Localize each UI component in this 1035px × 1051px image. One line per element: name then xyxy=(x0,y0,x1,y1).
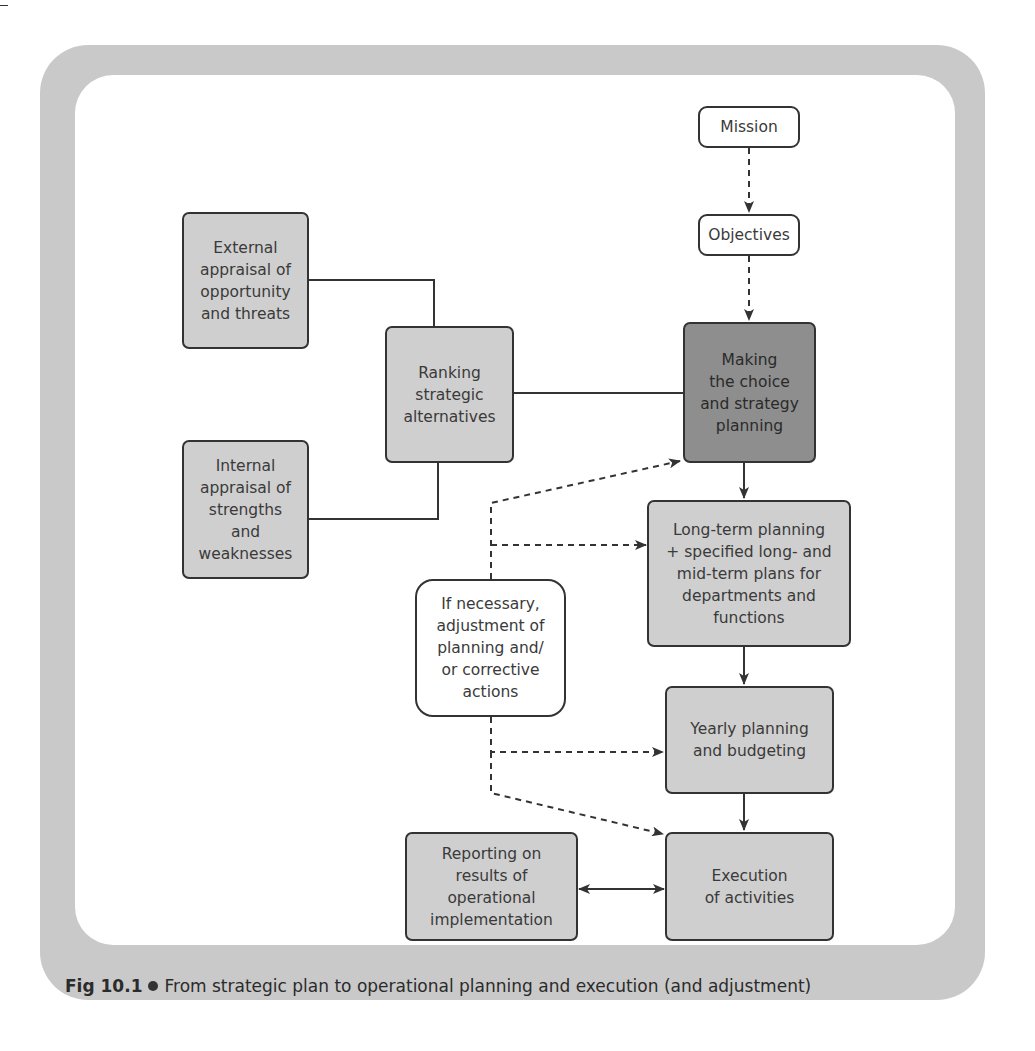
node-internal-appraisal-label: Internal appraisal of strengths and weak… xyxy=(199,455,293,565)
node-adjustment-label: If necessary, adjustment of planning and… xyxy=(436,593,544,703)
edge-internal-ranking xyxy=(309,463,438,519)
node-long-term-planning: Long-term planning + specified long- and… xyxy=(647,500,851,647)
node-ranking-alternatives: Ranking strategic alternatives xyxy=(385,326,514,463)
figure-caption-text: From strategic plan to operational plann… xyxy=(164,976,811,996)
node-long-term-planning-label: Long-term planning + specified long- and… xyxy=(666,519,831,629)
node-execution-label: Execution of activities xyxy=(705,865,795,909)
edge-external-ranking xyxy=(309,280,434,326)
figure-caption: Fig 10.1From strategic plan to operation… xyxy=(65,976,811,996)
figure-label: Fig 10.1 xyxy=(65,976,142,996)
node-objectives: Objectives xyxy=(698,214,800,256)
node-making-choice: Making the choice and strategy planning xyxy=(683,322,816,463)
node-execution: Execution of activities xyxy=(665,832,834,941)
node-mission-label: Mission xyxy=(720,116,777,138)
node-reporting: Reporting on results of operational impl… xyxy=(405,832,578,941)
node-external-appraisal: External appraisal of opportunity and th… xyxy=(182,212,309,349)
edge-adjust-execution xyxy=(491,752,663,834)
edge-adjust-yearly xyxy=(491,717,663,752)
node-reporting-label: Reporting on results of operational impl… xyxy=(430,843,553,931)
node-mission: Mission xyxy=(698,106,800,148)
node-making-choice-label: Making the choice and strategy planning xyxy=(700,349,799,437)
node-internal-appraisal: Internal appraisal of strengths and weak… xyxy=(182,440,309,579)
node-yearly-planning-label: Yearly planning and budgeting xyxy=(690,718,808,762)
node-ranking-alternatives-label: Ranking strategic alternatives xyxy=(403,362,495,428)
node-yearly-planning: Yearly planning and budgeting xyxy=(665,686,834,794)
node-external-appraisal-label: External appraisal of opportunity and th… xyxy=(200,237,291,325)
node-adjustment: If necessary, adjustment of planning and… xyxy=(415,579,566,717)
bullet-icon xyxy=(148,981,158,991)
node-objectives-label: Objectives xyxy=(708,224,790,246)
